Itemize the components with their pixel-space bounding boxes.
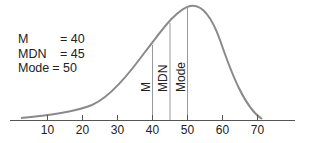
legend-row-median: MDN = 45 [18,47,85,62]
statistics-legend: M = 40 MDN = 45 Mode = 50 [18,32,85,76]
tick-label-10: 10 [41,123,55,137]
legend-value: = 40 [60,32,85,47]
legend-value: = 50 [52,61,77,76]
tick-label-30: 30 [111,123,125,137]
tick-label-20: 20 [76,123,90,137]
legend-key: M [18,32,60,47]
mean-label: M [139,82,153,92]
x-axis-ticks [48,115,258,120]
median-label: MDN [156,65,170,92]
tick-label-70: 70 [251,123,265,137]
legend-key: MDN [18,47,60,62]
legend-row-mode: Mode = 50 [18,61,85,76]
mode-label: Mode [174,62,188,92]
tick-label-50: 50 [181,123,195,137]
tick-label-60: 60 [216,123,230,137]
legend-key: Mode [18,61,49,76]
legend-row-mean: M = 40 [18,32,85,47]
legend-value: = 45 [60,47,85,62]
tick-label-40: 40 [146,123,160,137]
